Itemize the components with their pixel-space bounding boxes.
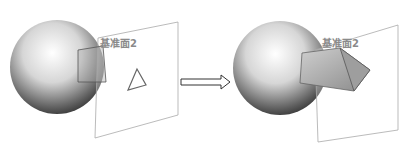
plane-label-right: 基准面2 bbox=[321, 37, 359, 49]
right-figure: 基准面2 bbox=[233, 21, 398, 142]
plane-label-left: 基准面2 bbox=[99, 37, 137, 49]
intersection-patch bbox=[78, 46, 106, 82]
left-figure: 基准面2 bbox=[10, 20, 178, 138]
diagram-canvas: 基准面2 基准面2 bbox=[0, 0, 408, 148]
hollow-right-arrow-icon bbox=[181, 75, 230, 89]
